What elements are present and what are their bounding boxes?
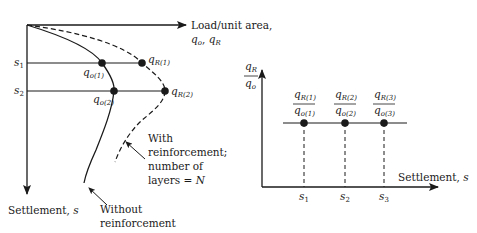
svg-text:qR(3): qR(3) — [374, 88, 396, 102]
ratio-label-1: qR(1) qo(1) — [293, 88, 316, 118]
ratio-point-2 — [341, 119, 349, 127]
without-reinforcement-line1: Without — [100, 203, 143, 215]
svg-text:qo(2): qo(2) — [335, 104, 356, 118]
s2-label: s2 — [14, 84, 24, 98]
s3-tick-label: s3 — [379, 190, 389, 204]
s2-tick-label: s2 — [340, 190, 350, 204]
qr2-label: qR(2) — [171, 85, 193, 99]
svg-text:qR(2): qR(2) — [335, 88, 357, 102]
figure-canvas: Load/unit area, qo, qR Settlement, s s1 … — [0, 0, 477, 233]
qo2-point — [110, 87, 118, 95]
with-reinforcement-line4: layers = N — [148, 174, 206, 186]
left-plot: Load/unit area, qo, qR Settlement, s s1 … — [8, 19, 272, 229]
qo1-label: qo(1) — [83, 66, 104, 80]
qo1-point — [98, 59, 106, 67]
svg-text:qo: qo — [245, 77, 256, 91]
svg-text:qR(1): qR(1) — [294, 88, 316, 102]
svg-text:qo(3): qo(3) — [374, 104, 395, 118]
with-reinforcement-line3: number of — [148, 160, 204, 172]
qr1-point — [138, 59, 146, 67]
qo2-label: qo(2) — [93, 93, 114, 107]
load-axis-symbols: qo, qR — [191, 33, 221, 47]
ratio-label-2: qR(2) qo(2) — [334, 88, 357, 118]
settlement-axis-right-label: Settlement, s — [398, 171, 469, 183]
s1-tick-label: s1 — [299, 190, 309, 204]
ratio-label-3: qR(3) qo(3) — [373, 88, 396, 118]
svg-text:qo(1): qo(1) — [294, 104, 315, 118]
with-reinforcement-line2: reinforcement; — [148, 146, 227, 158]
diagram-svg: Load/unit area, qo, qR Settlement, s s1 … — [0, 0, 477, 233]
s1-label: s1 — [14, 56, 24, 70]
qr1-label: qR(1) — [148, 53, 170, 67]
settlement-axis-label: Settlement, s — [8, 204, 79, 216]
ratio-axis-label: qR qo — [244, 60, 258, 91]
right-plot: qR qo Settlement, s qR(1) qo(1) qR(2) qo… — [244, 60, 469, 204]
with-reinforcement-line1: With — [148, 132, 173, 144]
qr2-point — [161, 87, 169, 95]
svg-text:qR: qR — [245, 60, 258, 74]
without-reinforcement-line2: reinforcement — [100, 217, 177, 229]
ratio-point-3 — [380, 119, 388, 127]
with-reinforcement-pointer — [126, 142, 145, 159]
ratio-point-1 — [300, 119, 308, 127]
load-axis-label: Load/unit area, — [191, 19, 272, 31]
